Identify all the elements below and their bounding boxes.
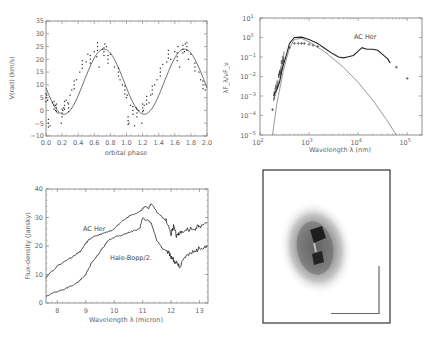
x-axis-label: Wavelength λ (micron) xyxy=(89,316,163,324)
tick-label: 10−5 xyxy=(240,130,256,140)
tick-label: 101 xyxy=(242,13,253,23)
plot-frame xyxy=(46,21,207,136)
sed-panel: 10210310410510−510−410−310−210−1100101 W… xyxy=(222,13,422,155)
x-tick-label: 8 xyxy=(55,307,59,315)
axis-ticks: 0.00.20.40.60.81.01.21.41.61.82.0−10−505… xyxy=(30,17,212,147)
y-tick-label: 10 xyxy=(35,271,43,279)
x-tick-label: 1.8 xyxy=(186,139,196,147)
ac-her-spectrum xyxy=(46,204,207,278)
mid-ir-spectrum-panel: 8910111213010203040 Wavelength λ (micron… xyxy=(24,185,208,324)
y-axis-label: λF_λ/νF_ν xyxy=(222,62,230,93)
y-tick-label: −5 xyxy=(34,120,44,128)
y-tick-label: 0 xyxy=(40,107,44,115)
x-tick-label: 1.2 xyxy=(137,139,147,147)
tick-label: 10−2 xyxy=(240,71,256,81)
observed-curve xyxy=(274,37,391,96)
axis-ticks: 10210310410510−510−410−310−210−1100101 xyxy=(240,13,422,148)
x-tick-label: 0.2 xyxy=(57,139,67,147)
hale-bopp-annotation: Hale-Bopp/2. xyxy=(110,254,152,262)
x-tick-label: 11 xyxy=(138,307,146,315)
x-tick-label: 0.4 xyxy=(73,139,83,147)
y-tick-label: 25 xyxy=(36,43,44,51)
tick-label: 102 xyxy=(252,137,263,147)
y-tick-label: 0 xyxy=(39,299,43,307)
y-tick-label: 40 xyxy=(35,185,43,193)
x-tick-label: 10 xyxy=(110,307,118,315)
y-tick-label: 20 xyxy=(35,242,43,250)
y-tick-label: 30 xyxy=(35,214,43,222)
tick-label: 100 xyxy=(242,32,253,42)
tick-label: 105 xyxy=(399,137,410,147)
x-tick-label: 1.6 xyxy=(170,139,180,147)
x-tick-label: 1.4 xyxy=(154,139,164,147)
plot-frame xyxy=(260,18,422,135)
x-tick-label: 0.6 xyxy=(89,139,99,147)
y-tick-label: 5 xyxy=(40,94,44,102)
x-tick-label: 0.8 xyxy=(105,139,115,147)
model-curve xyxy=(273,38,397,135)
x-axis-label: Wavelength λ (nm) xyxy=(309,146,371,154)
tick-label: 10−3 xyxy=(240,91,256,101)
x-tick-label: 1.0 xyxy=(121,139,131,147)
y-tick-label: 15 xyxy=(36,68,44,76)
x-tick-label: 12 xyxy=(167,307,175,315)
x-axis-label: orbital phase xyxy=(105,149,148,157)
y-tick-label: 20 xyxy=(36,56,44,64)
figure-canvas: 0.00.20.40.60.81.01.21.41.61.82.0−10−505… xyxy=(0,0,434,338)
axis-ticks: 8910111213010203040 xyxy=(35,185,208,315)
object-annotation: AC Her xyxy=(354,33,377,41)
radial-velocity-panel: 0.00.20.40.60.81.01.21.41.61.82.0−10−505… xyxy=(8,17,212,157)
tick-label: 10−1 xyxy=(240,52,256,62)
nebula-image-panel xyxy=(263,170,390,323)
y-tick-label: −10 xyxy=(30,132,44,140)
x-tick-label: 13 xyxy=(195,307,203,315)
tick-label: 10−4 xyxy=(240,110,256,120)
x-tick-label: 9 xyxy=(84,307,88,315)
plot-area xyxy=(271,37,409,135)
y-axis-label: V(rad) (km/s) xyxy=(8,56,16,99)
x-tick-label: 2.0 xyxy=(202,139,212,147)
y-tick-label: 35 xyxy=(36,17,44,25)
y-axis-label: Flux-density (Jansky) xyxy=(24,212,32,280)
ac-her-annotation: AC Her xyxy=(83,225,106,233)
fit-curve xyxy=(46,49,207,114)
plot-area xyxy=(46,204,207,297)
y-tick-label: 10 xyxy=(36,81,44,89)
plot-area xyxy=(45,42,207,128)
y-tick-label: 30 xyxy=(36,30,44,38)
